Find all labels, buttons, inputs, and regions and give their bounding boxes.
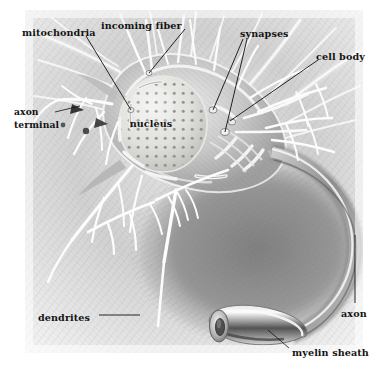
paper-grain-overlay bbox=[25, 10, 363, 353]
label-myelin-sheath: myelin sheath bbox=[292, 347, 369, 358]
label-axon-terminal-line1: axon bbox=[14, 106, 39, 117]
label-synapses: synapses bbox=[240, 28, 289, 39]
label-dendrites: dendrites bbox=[38, 312, 90, 323]
label-cell-body: cell body bbox=[316, 51, 365, 62]
neuron-illustration-canvas: mitochondria incoming fiber synapses cel… bbox=[0, 0, 382, 377]
label-nucleus: nucleus bbox=[130, 118, 173, 129]
label-axon: axon bbox=[341, 308, 367, 319]
label-axon-terminal-line2: terminal bbox=[14, 119, 59, 130]
neuron-figure: mitochondria incoming fiber synapses cel… bbox=[0, 0, 382, 377]
label-incoming-fiber: incoming fiber bbox=[101, 20, 183, 31]
label-mitochondria: mitochondria bbox=[22, 27, 96, 38]
